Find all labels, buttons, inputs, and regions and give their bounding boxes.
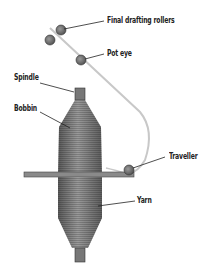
drafting-roller-bottom-icon	[45, 35, 55, 45]
spindle-top	[75, 88, 85, 100]
label-traveller: Traveller	[169, 152, 198, 161]
spindle-bottom	[75, 248, 85, 262]
label-spindle: Spindle	[14, 73, 39, 82]
pot-eye-icon	[76, 55, 86, 65]
label-pot-eye: Pot eye	[107, 49, 132, 58]
traveller-icon	[124, 165, 134, 175]
label-yarn: Yarn	[137, 196, 152, 205]
label-final-drafting-rollers: Final drafting rollers	[107, 16, 175, 25]
ring-spinning-diagram	[0, 0, 210, 272]
drafting-roller-top-icon	[56, 25, 66, 35]
label-bobbin: Bobbin	[14, 104, 37, 113]
ring-rail	[24, 172, 134, 177]
